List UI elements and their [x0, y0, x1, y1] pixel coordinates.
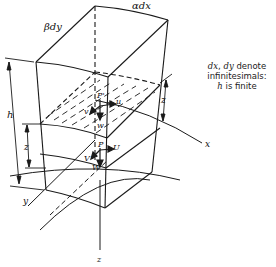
h-arrow-bottom — [17, 176, 21, 184]
z-left-label: z — [23, 142, 29, 152]
z-axis-label: z — [96, 255, 102, 264]
V-label: V — [84, 154, 91, 163]
y-axis-line — [28, 140, 95, 206]
h-label: h — [7, 109, 13, 120]
top-face-edge-right — [108, 20, 168, 77]
middle-plane-back — [95, 72, 160, 85]
infinitesimals-note: dx, dy denote infinitesimals: h is finit… — [197, 61, 276, 91]
v-label: v — [84, 107, 89, 116]
note-line-2: infinitesimals: — [197, 71, 276, 81]
w-arrowhead — [97, 113, 103, 120]
note-line-3: h is finite — [197, 81, 276, 91]
middle-plane-right — [107, 85, 160, 138]
U-label: U — [113, 143, 120, 152]
x-axis-label: x — [205, 139, 210, 149]
z-right-label: z — [160, 95, 166, 105]
column-element-diagram: βdy αdx h z z x y z P' u v w P U V W — [0, 0, 276, 267]
W-label: W — [92, 163, 101, 172]
V-arrowhead — [91, 152, 97, 159]
edge-front-right — [105, 77, 108, 208]
P-label: P — [97, 140, 104, 149]
bottom-face-edge-right — [105, 172, 152, 208]
note-line-1: dx, dy denote — [197, 61, 276, 71]
z-right-arrow-top — [164, 80, 168, 87]
h-dim-top-tick — [5, 58, 34, 62]
y-axis-label: y — [22, 196, 29, 206]
h-dim-line — [9, 62, 19, 183]
bottom-face-edge-front — [46, 190, 105, 208]
alpha-dx-label: αdx — [132, 0, 151, 11]
z-right-arrow-bottom — [161, 114, 165, 121]
beta-dy-label: βdy — [43, 21, 62, 32]
top-face-edge-left — [36, 6, 95, 62]
z-left-arrow-bottom — [27, 160, 31, 167]
w-label: w — [97, 121, 104, 130]
top-face-edge-front — [36, 62, 108, 77]
h-arrow-top — [7, 62, 11, 70]
P-prime-label: P' — [96, 91, 105, 100]
u-label: u — [116, 97, 121, 106]
z-left-arrow-top — [25, 125, 29, 132]
h-dim-bottom-tick — [10, 186, 44, 190]
